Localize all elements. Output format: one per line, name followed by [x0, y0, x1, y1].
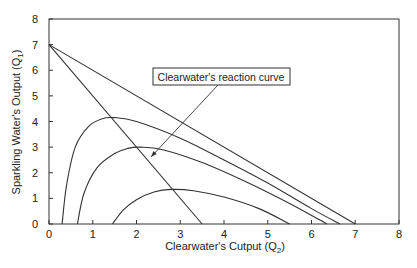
annotation: Clearwater's reaction curve [151, 68, 290, 157]
x-tick-label: 0 [46, 228, 52, 240]
y-tick-label: 5 [32, 90, 38, 102]
y-tick-label: 8 [32, 13, 38, 25]
x-tick-label: 3 [177, 228, 183, 240]
x-tick-label: 4 [221, 228, 227, 240]
x-tick-label: 2 [133, 228, 139, 240]
x-tick-label: 8 [396, 228, 402, 240]
x-tick-label: 7 [352, 228, 358, 240]
series-line [112, 189, 289, 224]
annotation-arrow [151, 85, 218, 157]
y-tick-label: 4 [32, 116, 38, 128]
y-tick-label: 1 [32, 192, 38, 204]
x-tick-label: 6 [308, 228, 314, 240]
x-axis-label: Clearwater's Cutput (Q2) [165, 240, 285, 255]
y-tick-label: 7 [32, 39, 38, 51]
y-tick-label: 6 [32, 64, 38, 76]
y-tick-label: 0 [32, 218, 38, 230]
axis-ticks: 012345678012345678 [32, 13, 402, 240]
x-tick-label: 5 [265, 228, 271, 240]
y-tick-label: 3 [32, 141, 38, 153]
y-axis-label: Sparkling Water's Output (Q1) [10, 50, 25, 195]
y-tick-label: 2 [32, 167, 38, 179]
plot-frame [49, 19, 399, 224]
annotation-label: Clearwater's reaction curve [158, 71, 285, 83]
chart: 012345678012345678 Clearwater's reaction… [0, 0, 417, 268]
x-tick-label: 1 [90, 228, 96, 240]
